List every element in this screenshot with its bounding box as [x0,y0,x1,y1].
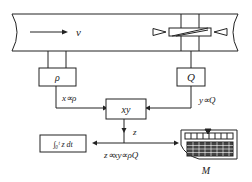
z-signal-label: z [132,127,137,137]
velocity-arrow-icon [30,30,68,35]
meter-display-icon [181,129,237,159]
pipe-right-break [233,14,238,51]
flowmeter-element-icon [153,14,227,68]
relation-label: z∝xy∝ρQ [103,150,139,160]
pipe-left-break [12,14,17,51]
meter-label: M [201,165,211,176]
velocity-label: v [76,26,81,38]
x-signal-label: x∝ρ [61,93,77,103]
y-signal-label: y∝Q [198,95,216,105]
density-sensor-stem [48,51,66,68]
y-signal-line [145,86,191,111]
multiplier-block-label: xy [121,104,131,115]
flow-block-label: Q [187,71,195,83]
density-block-label: ρ [54,72,60,83]
mass-flow-diagram: v ρ Q x∝ρ y∝Q xy z z∝xy [0,0,252,182]
integrator-block-label: ∫₀ᵗ z dt [52,140,73,149]
